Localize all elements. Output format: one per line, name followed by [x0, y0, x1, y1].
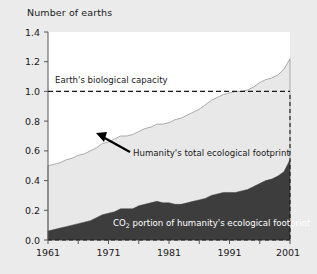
- y-tick-label-1.4: 1.4: [25, 27, 40, 38]
- chart-container: Number of earths 1.4 1.2 1.0 0.8 0.6 0.4: [0, 0, 317, 274]
- x-tick-label-2001: 2001: [276, 247, 300, 258]
- y-tick-label-0.6: 0.6: [25, 145, 40, 156]
- x-tick-marks: [48, 240, 290, 244]
- y-tick-label-1.0: 1.0: [25, 86, 40, 97]
- biological-capacity-label: Earth's biological capacity: [55, 75, 168, 85]
- x-tick-label-1971: 1971: [96, 247, 120, 258]
- y-tick-label-0.0: 0.0: [25, 235, 40, 246]
- y-tick-marks: [44, 32, 48, 240]
- x-tick-label-1991: 1991: [217, 247, 241, 258]
- y-tick-label-1.2: 1.2: [25, 56, 40, 67]
- chart-svg: 1.4 1.2 1.0 0.8 0.6 0.4 0.2 0.0 1961 197…: [0, 0, 317, 274]
- co2-portion-label: CO2 portion of humanity's ecological foo…: [113, 218, 311, 229]
- y-tick-label-0.4: 0.4: [25, 175, 40, 186]
- y-tick-label-0.2: 0.2: [25, 205, 40, 216]
- x-tick-label-1961: 1961: [36, 247, 60, 258]
- co2-suffix: portion of humanity's ecological footpri…: [130, 218, 311, 228]
- x-tick-label-1981: 1981: [157, 247, 181, 258]
- co2-prefix: CO: [113, 218, 126, 228]
- y-tick-label-0.8: 0.8: [25, 116, 40, 127]
- total-footprint-label: Humanity's total ecological footprint: [133, 148, 290, 158]
